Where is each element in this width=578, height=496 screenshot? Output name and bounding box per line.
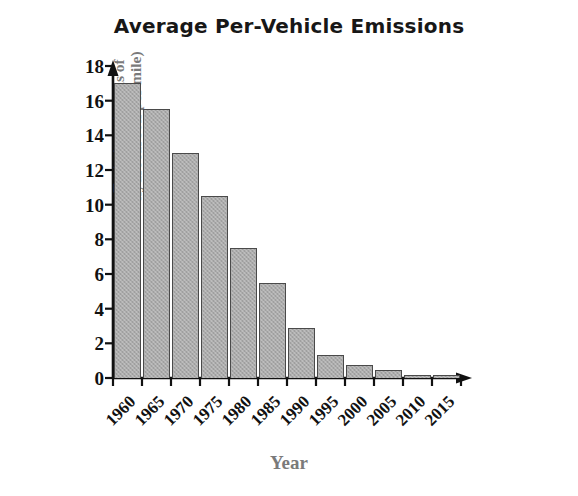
chart-container: Average Per-Vehicle Emissions (0, 0, 578, 496)
x-tick-labels: 1960 1965 1970 1975 1980 1985 1990 1995 … (0, 0, 578, 496)
x-axis-title: Year (113, 452, 465, 474)
